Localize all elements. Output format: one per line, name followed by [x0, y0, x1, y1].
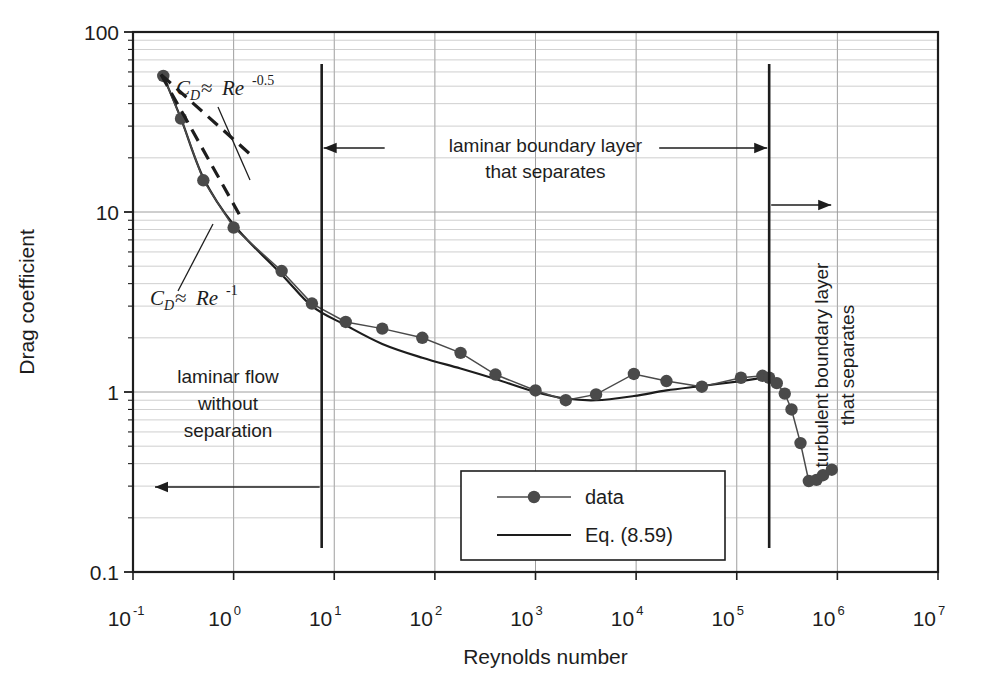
chart-svg: 0.111010010-1100101102103104105106107Rey… [0, 0, 992, 686]
y-tick-label: 10 [96, 201, 119, 224]
data-point-marker [340, 316, 352, 328]
data-point-marker [416, 332, 428, 344]
x-tick-label-base: 10 [208, 607, 231, 630]
asymptote-label-re-one-variable: Re [195, 286, 218, 310]
x-tick-label-exponent: 5 [737, 603, 744, 618]
x-tick-label-base: 10 [913, 607, 936, 630]
x-tick-label-exponent: -1 [133, 603, 145, 618]
data-point-marker [696, 381, 708, 393]
asymptote-label-re-one-operator: ≈ [175, 286, 187, 310]
x-tick-label-base: 10 [711, 607, 734, 630]
data-point-marker [660, 375, 672, 387]
asymptote-label-re-half-operator: ≈ [201, 76, 213, 100]
y-tick-label: 1 [107, 381, 119, 404]
legend-label-data: data [585, 486, 625, 508]
asymptote-label-re-half-base: C [176, 76, 191, 100]
data-point-marker [227, 221, 239, 233]
turbulent-bl-label-line2: that separates [837, 305, 858, 425]
asymptote-label-re-half-exponent: -0.5 [252, 73, 274, 88]
x-tick-label-exponent: 2 [435, 603, 442, 618]
x-tick-label-exponent: 0 [234, 603, 241, 618]
x-axis-title: Reynolds number [463, 645, 628, 668]
data-point-marker [275, 265, 287, 277]
x-tick-label-base: 10 [510, 607, 533, 630]
x-tick-label-base: 10 [410, 607, 433, 630]
y-tick-label: 0.1 [90, 561, 119, 584]
asymptote-label-re-one-subscript: D [163, 298, 174, 313]
data-point-marker [735, 372, 747, 384]
legend-label-equation: Eq. (8.59) [585, 524, 673, 546]
laminar-flow-label-line3: separation [184, 420, 273, 441]
x-tick-label-exponent: 6 [837, 603, 844, 618]
x-tick-label-base: 10 [108, 607, 131, 630]
x-tick-label-exponent: 7 [938, 603, 945, 618]
data-point-marker [590, 388, 602, 400]
data-point-marker [771, 377, 783, 389]
data-point-marker [197, 174, 209, 186]
x-tick-label-exponent: 1 [334, 603, 341, 618]
data-point-marker [779, 387, 791, 399]
legend: dataEq. (8.59) [461, 471, 725, 560]
y-axis-title: Drag coefficient [15, 229, 38, 375]
asymptote-label-re-one-base: C [150, 286, 165, 310]
laminar-bl-label-line2: that separates [485, 161, 605, 182]
data-point-marker [628, 368, 640, 380]
drag-coefficient-chart: 0.111010010-1100101102103104105106107Rey… [0, 0, 992, 686]
data-point-marker [794, 437, 806, 449]
data-point-marker [376, 322, 388, 334]
data-point-marker [489, 368, 501, 380]
data-point-marker [306, 297, 318, 309]
legend-marker-data [528, 491, 540, 503]
legend-box [461, 471, 725, 560]
data-point-marker [560, 394, 572, 406]
x-tick-label-base: 10 [309, 607, 332, 630]
data-point-marker [785, 403, 797, 415]
laminar-bl-label-line1: laminar boundary layer [449, 135, 643, 156]
data-point-marker [454, 347, 466, 359]
asymptote-label-re-half-variable: Re [221, 76, 244, 100]
x-tick-label-exponent: 4 [636, 603, 643, 618]
laminar-flow-label-line2: without [197, 393, 259, 414]
asymptote-label-re-one-exponent: -1 [226, 283, 238, 298]
turbulent-bl-label-line1: turbulent boundary layer [811, 262, 832, 468]
data-point-marker [529, 384, 541, 396]
x-tick-label-base: 10 [611, 607, 634, 630]
laminar-flow-label-line1: laminar flow [177, 366, 279, 387]
asymptote-label-re-half-subscript: D [189, 88, 200, 103]
x-tick-label-base: 10 [812, 607, 835, 630]
x-tick-label-exponent: 3 [536, 603, 543, 618]
y-tick-label: 100 [84, 21, 119, 44]
